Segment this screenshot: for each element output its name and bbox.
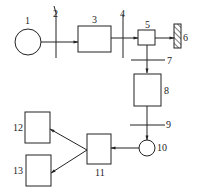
label-12: 12	[13, 122, 23, 133]
node-13-box	[26, 155, 51, 186]
label-6: 6	[183, 32, 188, 43]
node-11-box	[87, 134, 111, 164]
label-13: 13	[13, 165, 23, 176]
label-7: 7	[167, 55, 172, 66]
node-12-box	[25, 112, 50, 143]
node-10-circle	[139, 140, 155, 156]
label-10: 10	[157, 142, 167, 153]
edge-11-13	[51, 150, 87, 173]
node-1-circle	[15, 29, 41, 55]
label-2: 2	[53, 8, 58, 19]
node-5-box	[138, 30, 155, 45]
node-6-target	[174, 24, 181, 48]
label-5: 5	[145, 19, 150, 30]
edge-11-12	[50, 129, 87, 150]
node-3-box	[78, 26, 111, 52]
block-diagram: 1 2 3 4 5 6 7 8 9 10 11 12 13	[0, 0, 197, 195]
node-8-box	[134, 74, 161, 106]
label-9: 9	[166, 119, 171, 130]
label-8: 8	[164, 85, 169, 96]
label-1: 1	[25, 15, 30, 26]
label-3: 3	[92, 14, 97, 25]
label-4: 4	[120, 8, 125, 19]
label-11: 11	[95, 167, 105, 178]
